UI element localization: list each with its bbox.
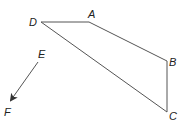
label-d: D [29,16,37,28]
label-f: F [4,106,12,118]
geometry-diagram: D A B C E F [0,0,193,127]
label-b: B [169,56,176,68]
vector-ef [11,62,38,100]
label-a: A [87,8,95,20]
quadrilateral-dabc [41,22,167,112]
label-e: E [38,48,46,60]
label-c: C [169,110,177,122]
